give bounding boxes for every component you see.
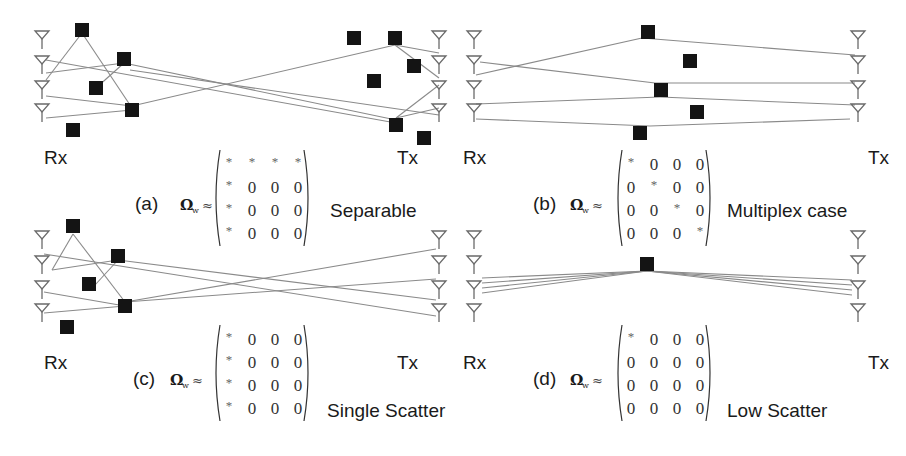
tx-antenna-icon — [851, 56, 865, 74]
matrix-cell: 0 — [294, 224, 303, 243]
tx-label: Tx — [397, 147, 419, 168]
right-paren — [706, 150, 710, 246]
rx-antenna-icon — [467, 231, 481, 249]
scatterer-square — [690, 105, 704, 119]
matrix-cell: * — [226, 200, 233, 215]
omega-matrix: *0000*0000*0000* — [618, 150, 710, 246]
mimo-scattering-figure: RxTx(a)Ωw≈*****000*000*000SeparableRxTx(… — [0, 0, 906, 456]
ray-path — [46, 110, 132, 118]
ray-path — [124, 63, 396, 120]
matrix-cell: 0 — [248, 376, 257, 395]
matrix-cell: 0 — [248, 201, 257, 220]
omega-subscript: w — [582, 381, 589, 390]
ray-path — [44, 254, 436, 316]
left-paren — [216, 150, 220, 246]
matrix-cell: 0 — [696, 178, 705, 197]
scatterers — [640, 257, 654, 271]
matrix-cell: 0 — [294, 353, 303, 372]
matrix-cell: 0 — [650, 330, 659, 349]
rx-antenna-icon — [35, 104, 49, 122]
matrix-cell: 0 — [294, 376, 303, 395]
panel-b: RxTx(b)Ωw≈*0000*0000*0000*Multiplex case — [463, 25, 890, 246]
left-paren — [618, 325, 622, 421]
right-paren — [304, 150, 308, 246]
scatterer-square — [367, 74, 381, 88]
rx-label: Rx — [463, 147, 487, 168]
panel-a: RxTx(a)Ωw≈*****000*000*000Separable — [35, 23, 446, 246]
ray-path — [118, 260, 436, 300]
matrix-cell: * — [226, 223, 233, 238]
matrix-cell: 0 — [627, 201, 636, 220]
tx-antenna-icon — [432, 281, 446, 299]
right-paren — [706, 325, 710, 421]
left-paren — [216, 325, 220, 421]
matrix-cell: 0 — [673, 376, 682, 395]
matrix-cell: 0 — [627, 224, 636, 243]
matrix-cell: 0 — [650, 224, 659, 243]
scatterer-square — [633, 126, 647, 140]
matrix-cell: 0 — [271, 224, 280, 243]
rx-antenna-icon — [467, 56, 481, 74]
tx-antenna-icon — [432, 56, 446, 74]
matrix-cell: 0 — [673, 178, 682, 197]
matrix-cell: 0 — [271, 399, 280, 418]
ray-path — [647, 271, 852, 280]
ray-path — [642, 38, 855, 55]
rays — [44, 234, 436, 316]
matrix-cell: 0 — [696, 155, 705, 174]
tx-antenna-icon — [851, 81, 865, 99]
tx-antenna-icon — [432, 304, 446, 322]
approx-symbol: ≈ — [192, 373, 203, 388]
matrix-cell: 0 — [627, 178, 636, 197]
matrix-cell: 0 — [271, 330, 280, 349]
matrix-cell: * — [226, 154, 233, 169]
tx-antenna-icon — [851, 281, 865, 299]
matrix-cell: 0 — [650, 399, 659, 418]
ray-path — [476, 119, 650, 126]
panel-tag: (a) — [135, 193, 158, 214]
matrix-cell: 0 — [696, 399, 705, 418]
scatterer-square — [117, 52, 131, 66]
rx-antenna-icon — [467, 281, 481, 299]
scatterer-square — [60, 320, 74, 334]
scatterers — [60, 219, 132, 334]
rx-label: Rx — [44, 352, 68, 373]
tx-antenna-icon — [432, 231, 446, 249]
matrix-cell: 0 — [650, 201, 659, 220]
rx-antenna-icon — [35, 56, 49, 74]
omega-subscript: w — [582, 206, 589, 215]
approx-symbol: ≈ — [202, 198, 213, 213]
rx-label: Rx — [44, 147, 68, 168]
ray-path — [46, 33, 82, 80]
scatterer-square — [347, 31, 361, 45]
matrix-cell: * — [628, 154, 635, 169]
matrix-cell: 0 — [696, 376, 705, 395]
matrix-cell: 0 — [650, 155, 659, 174]
ray-path — [650, 119, 850, 126]
case-label: Multiplex case — [727, 200, 847, 221]
rx-antenna-icon — [35, 281, 49, 299]
scatterer-square — [683, 54, 697, 68]
matrix-cell: 0 — [673, 224, 682, 243]
scatterer-square — [82, 277, 96, 291]
left-paren — [618, 150, 622, 246]
ray-path — [73, 234, 125, 302]
ray-path — [44, 292, 125, 306]
ray-path — [52, 260, 118, 270]
ray-path — [130, 70, 439, 115]
matrix-cell: 0 — [294, 399, 303, 418]
scatterer-square — [89, 81, 103, 95]
matrix-cell: 0 — [627, 399, 636, 418]
omega-matrix: *000*000*000*000 — [216, 325, 308, 421]
scatterer-square — [388, 31, 402, 45]
matrix-cell: 0 — [627, 353, 636, 372]
tx-antenna-icon — [432, 81, 446, 99]
matrix-cell: * — [651, 177, 658, 192]
matrix-cell: 0 — [248, 178, 257, 197]
panel-c: RxTx(c)Ωw≈*000*000*000*000Single Scatter — [35, 219, 446, 421]
ray-path — [395, 45, 439, 53]
matrix-cell: * — [226, 352, 233, 367]
tx-label: Tx — [397, 352, 419, 373]
rx-label: Rx — [463, 352, 487, 373]
matrix-cell: * — [628, 329, 635, 344]
